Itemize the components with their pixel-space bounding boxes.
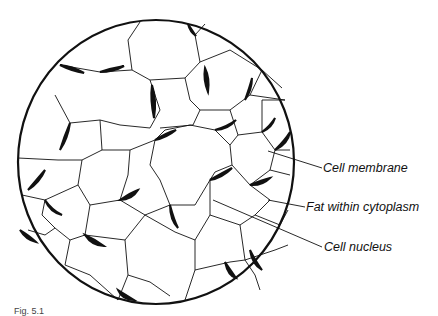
label-cell-nucleus: Cell nucleus bbox=[324, 240, 392, 254]
figure-caption: Fig. 5.1 bbox=[14, 306, 44, 316]
cell-walls bbox=[18, 22, 290, 300]
leader-lines bbox=[213, 151, 322, 247]
label-cell-membrane: Cell membrane bbox=[323, 161, 408, 175]
label-fat-within-cytoplasm: Fat within cytoplasm bbox=[306, 200, 419, 214]
adipose-tissue-diagram bbox=[0, 0, 438, 316]
